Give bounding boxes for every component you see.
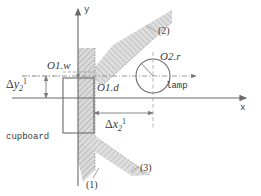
dim-dx-sup: 1 [122,117,126,126]
o1-depth-label: O1.d [97,82,119,93]
axis-y-label: y [84,6,89,15]
dim-dx-delta: Δ [105,117,113,131]
o2-radius-label: O2.r [160,51,180,62]
diagram-figure: y x O1.w O1.d O2.r lamp cupboard Δy21 Δx… [0,0,261,196]
diagram-canvas [0,0,261,196]
dim-dy [22,76,63,98]
wall-2-ref-label: (2) [158,26,170,36]
o1-width-label: O1.w [47,60,71,71]
axis-x-label: x [240,104,245,113]
lamp-label: lamp [166,82,188,91]
dim-dx-label: Δx21 [105,118,126,133]
dim-dy-delta: Δ [6,77,14,91]
cupboard-label: cupboard [6,133,49,142]
wall-2-band [86,10,172,84]
wall-1-band [78,48,95,182]
dim-dy-label: Δy21 [6,78,27,93]
wall-1-ref-label: (1) [86,180,98,190]
wall-3-ref-label: (3) [140,163,152,173]
dim-dy-sup: 1 [23,77,27,86]
